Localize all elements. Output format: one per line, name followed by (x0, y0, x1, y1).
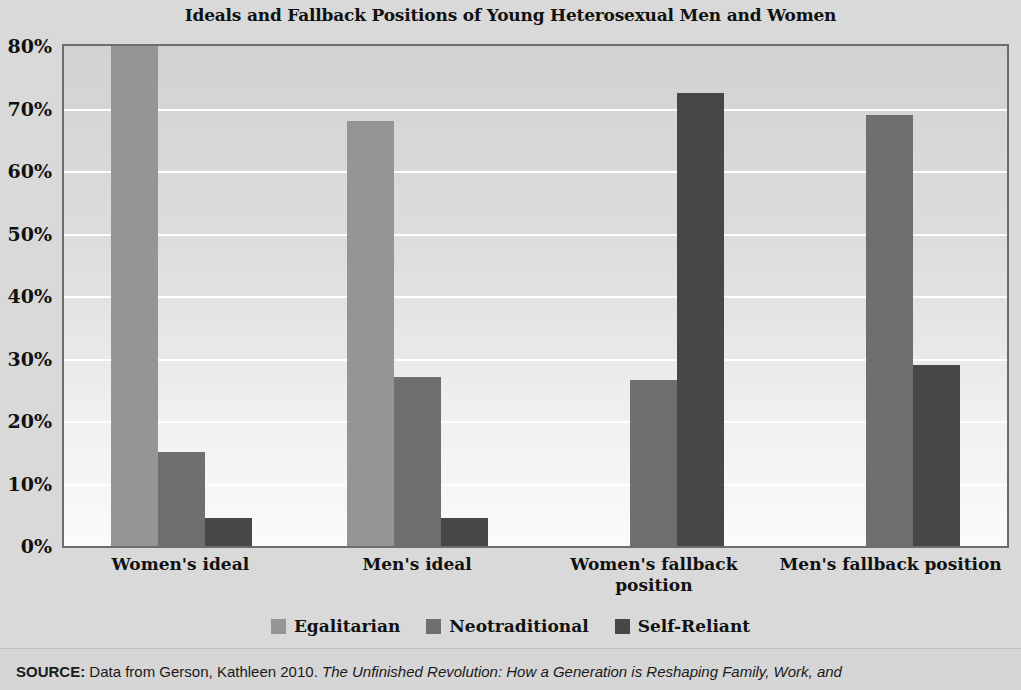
source-text: SOURCE: Data from Gerson, Kathleen 2010.… (16, 663, 1011, 680)
y-tick-label-60: 60% (8, 160, 53, 182)
x-axis-label-men-s-ideal: Men's ideal (299, 554, 536, 610)
y-tick-label-20: 20% (8, 410, 53, 432)
bar-women-s-fallback-position-self-reliant[interactable] (677, 93, 724, 546)
bar-group-women-s-fallback-position (536, 46, 772, 546)
legend-swatch-self-reliant-icon (615, 619, 630, 634)
source-keyword: SOURCE: (16, 663, 85, 680)
legend-item-self-reliant[interactable]: Self-Reliant (615, 616, 750, 636)
bar-men-s-fallback-position-self-reliant[interactable] (913, 365, 960, 546)
bar-men-s-fallback-position-neotraditional[interactable] (866, 115, 913, 546)
plot-area (62, 44, 1009, 548)
bar-men-s-ideal-neotraditional[interactable] (394, 377, 441, 546)
bar-men-s-ideal-self-reliant[interactable] (441, 518, 488, 546)
legend-item-neotraditional[interactable]: Neotraditional (426, 616, 588, 636)
x-axis-label-women-s-ideal: Women's ideal (62, 554, 299, 610)
y-tick-label-70: 70% (8, 98, 53, 120)
bar-women-s-ideal-neotraditional[interactable] (158, 452, 205, 546)
x-axis: Women's idealMen's idealWomen's fallback… (62, 554, 1009, 610)
chart-title: Ideals and Fallback Positions of Young H… (0, 5, 1021, 25)
bar-group-men-s-fallback-position (771, 46, 1007, 546)
chart-legend: EgalitarianNeotraditionalSelf-Reliant (0, 616, 1021, 636)
bar-group-women-s-ideal (64, 46, 300, 546)
legend-item-egalitarian[interactable]: Egalitarian (271, 616, 400, 636)
y-tick-label-10: 10% (8, 473, 53, 495)
bar-women-s-ideal-egalitarian[interactable] (111, 46, 158, 546)
legend-label-egalitarian: Egalitarian (294, 616, 400, 636)
x-axis-label-women-s-fallback-position: Women's fallback position (536, 554, 773, 610)
legend-label-self-reliant: Self-Reliant (638, 616, 750, 636)
source-footer: SOURCE: Data from Gerson, Kathleen 2010.… (0, 648, 1021, 690)
chart-figure: Ideals and Fallback Positions of Young H… (0, 0, 1021, 648)
legend-label-neotraditional: Neotraditional (449, 616, 588, 636)
source-prefix: Data from Gerson, Kathleen 2010. (85, 663, 322, 680)
y-tick-label-80: 80% (8, 35, 53, 57)
y-axis: 0%10%20%30%40%50%60%70%80% (0, 44, 58, 548)
bar-women-s-ideal-self-reliant[interactable] (205, 518, 252, 546)
y-tick-label-50: 50% (8, 223, 53, 245)
y-tick-label-0: 0% (21, 535, 52, 557)
bar-men-s-ideal-egalitarian[interactable] (347, 121, 394, 546)
source-title: The Unfinished Revolution: How a Generat… (322, 663, 842, 680)
bar-women-s-fallback-position-neotraditional[interactable] (630, 380, 677, 546)
legend-swatch-egalitarian-icon (271, 619, 286, 634)
x-axis-label-men-s-fallback-position: Men's fallback position (772, 554, 1009, 610)
bar-group-men-s-ideal (300, 46, 536, 546)
y-tick-label-40: 40% (8, 285, 53, 307)
y-tick-label-30: 30% (8, 348, 53, 370)
legend-swatch-neotraditional-icon (426, 619, 441, 634)
bars-layer (64, 46, 1007, 546)
